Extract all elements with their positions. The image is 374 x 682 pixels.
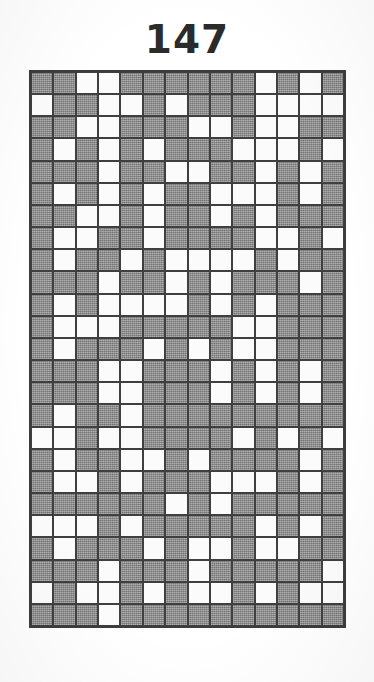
- grid-cell[interactable]: [255, 72, 277, 94]
- grid-cell[interactable]: [277, 183, 299, 205]
- grid-cell[interactable]: [98, 294, 120, 316]
- grid-cell[interactable]: [165, 72, 187, 94]
- grid-cell[interactable]: [76, 382, 98, 404]
- grid-cell[interactable]: [188, 449, 210, 471]
- grid-cell[interactable]: [255, 116, 277, 138]
- grid-cell[interactable]: [299, 72, 321, 94]
- grid-cell[interactable]: [188, 360, 210, 382]
- grid-cell[interactable]: [188, 316, 210, 338]
- grid-cell[interactable]: [188, 382, 210, 404]
- grid-cell[interactable]: [165, 471, 187, 493]
- grid-cell[interactable]: [210, 560, 232, 582]
- grid-cell[interactable]: [255, 316, 277, 338]
- grid-cell[interactable]: [210, 493, 232, 515]
- grid-cell[interactable]: [31, 294, 53, 316]
- grid-cell[interactable]: [322, 72, 344, 94]
- grid-cell[interactable]: [53, 138, 75, 160]
- grid-cell[interactable]: [210, 271, 232, 293]
- grid-cell[interactable]: [31, 205, 53, 227]
- grid-cell[interactable]: [165, 249, 187, 271]
- grid-cell[interactable]: [53, 249, 75, 271]
- grid-cell[interactable]: [232, 360, 254, 382]
- grid-cell[interactable]: [322, 249, 344, 271]
- grid-cell[interactable]: [76, 138, 98, 160]
- grid-cell[interactable]: [31, 360, 53, 382]
- grid-cell[interactable]: [277, 382, 299, 404]
- grid-cell[interactable]: [188, 116, 210, 138]
- grid-cell[interactable]: [120, 449, 142, 471]
- grid-cell[interactable]: [143, 72, 165, 94]
- grid-cell[interactable]: [232, 560, 254, 582]
- grid-cell[interactable]: [31, 72, 53, 94]
- grid-cell[interactable]: [299, 138, 321, 160]
- grid-cell[interactable]: [210, 161, 232, 183]
- grid-cell[interactable]: [232, 515, 254, 537]
- grid-cell[interactable]: [277, 316, 299, 338]
- grid-cell[interactable]: [210, 382, 232, 404]
- grid-cell[interactable]: [76, 227, 98, 249]
- grid-cell[interactable]: [76, 582, 98, 604]
- grid-cell[interactable]: [53, 338, 75, 360]
- grid-cell[interactable]: [98, 183, 120, 205]
- grid-cell[interactable]: [76, 116, 98, 138]
- grid-cell[interactable]: [31, 471, 53, 493]
- grid-cell[interactable]: [76, 205, 98, 227]
- grid-cell[interactable]: [98, 360, 120, 382]
- grid-cell[interactable]: [255, 161, 277, 183]
- grid-cell[interactable]: [255, 471, 277, 493]
- grid-cell[interactable]: [120, 404, 142, 426]
- grid-cell[interactable]: [165, 116, 187, 138]
- grid-cell[interactable]: [277, 515, 299, 537]
- grid-cell[interactable]: [98, 116, 120, 138]
- grid-cell[interactable]: [232, 493, 254, 515]
- grid-cell[interactable]: [299, 537, 321, 559]
- grid-cell[interactable]: [322, 205, 344, 227]
- grid-cell[interactable]: [188, 537, 210, 559]
- grid-cell[interactable]: [255, 560, 277, 582]
- grid-cell[interactable]: [277, 94, 299, 116]
- grid-cell[interactable]: [120, 271, 142, 293]
- grid-cell[interactable]: [53, 360, 75, 382]
- grid-cell[interactable]: [53, 427, 75, 449]
- grid-cell[interactable]: [120, 338, 142, 360]
- grid-cell[interactable]: [165, 360, 187, 382]
- grid-cell[interactable]: [76, 316, 98, 338]
- grid-cell[interactable]: [143, 404, 165, 426]
- grid-cell[interactable]: [143, 449, 165, 471]
- grid-cell[interactable]: [299, 560, 321, 582]
- grid-cell[interactable]: [143, 294, 165, 316]
- grid-cell[interactable]: [232, 183, 254, 205]
- grid-cell[interactable]: [188, 560, 210, 582]
- grid-cell[interactable]: [232, 338, 254, 360]
- grid-cell[interactable]: [120, 316, 142, 338]
- grid-cell[interactable]: [210, 582, 232, 604]
- grid-cell[interactable]: [188, 94, 210, 116]
- grid-cell[interactable]: [210, 338, 232, 360]
- grid-cell[interactable]: [210, 515, 232, 537]
- grid-cell[interactable]: [165, 404, 187, 426]
- grid-cell[interactable]: [143, 493, 165, 515]
- grid-cell[interactable]: [143, 515, 165, 537]
- grid-cell[interactable]: [232, 471, 254, 493]
- grid-cell[interactable]: [322, 515, 344, 537]
- grid-cell[interactable]: [76, 294, 98, 316]
- grid-cell[interactable]: [53, 316, 75, 338]
- grid-cell[interactable]: [76, 471, 98, 493]
- grid-cell[interactable]: [232, 138, 254, 160]
- grid-cell[interactable]: [98, 249, 120, 271]
- grid-cell[interactable]: [188, 161, 210, 183]
- grid-cell[interactable]: [277, 493, 299, 515]
- grid-cell[interactable]: [98, 560, 120, 582]
- grid-cell[interactable]: [98, 271, 120, 293]
- grid-cell[interactable]: [31, 493, 53, 515]
- grid-cell[interactable]: [322, 582, 344, 604]
- grid-cell[interactable]: [120, 360, 142, 382]
- grid-cell[interactable]: [210, 183, 232, 205]
- grid-cell[interactable]: [31, 94, 53, 116]
- grid-cell[interactable]: [322, 560, 344, 582]
- grid-cell[interactable]: [53, 537, 75, 559]
- grid-cell[interactable]: [255, 382, 277, 404]
- grid-cell[interactable]: [120, 294, 142, 316]
- grid-cell[interactable]: [188, 205, 210, 227]
- grid-cell[interactable]: [143, 94, 165, 116]
